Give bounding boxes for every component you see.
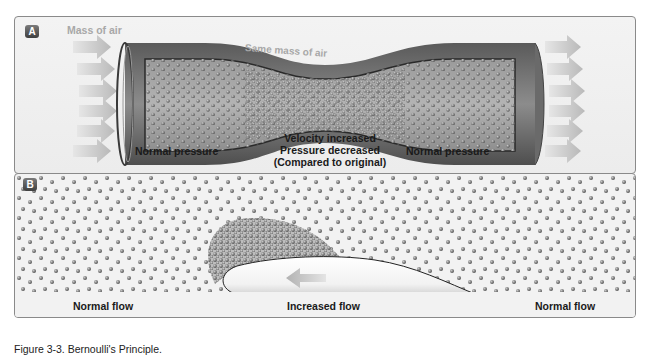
- panel-b-badge: B: [23, 178, 37, 191]
- panel-a-venturi: A Mass of air Same mass of air Normal pr…: [14, 16, 636, 174]
- inflow-arrows: [73, 35, 117, 163]
- velocity-pressure-label: Velocity increased Pressure decreased (C…: [265, 132, 395, 168]
- pressure-decreased-text: Pressure decreased: [265, 144, 395, 156]
- normal-flow-right-label: Normal flow: [535, 300, 595, 312]
- figure-caption: Figure 3-3. Bernoulli's Principle.: [14, 343, 162, 355]
- normal-pressure-left-label: Normal pressure: [135, 145, 218, 157]
- outflow-arrows: [545, 35, 585, 163]
- increased-flow-label: Increased flow: [287, 300, 360, 312]
- panel-a-badge: A: [25, 25, 39, 38]
- airfoil-illustration: [15, 174, 635, 317]
- normal-pressure-right-label: Normal pressure: [406, 145, 489, 157]
- velocity-increased-text: Velocity increased: [265, 132, 395, 144]
- normal-flow-left-label: Normal flow: [73, 300, 133, 312]
- mass-of-air-label: Mass of air: [67, 24, 122, 36]
- compared-to-original-text: (Compared to original): [265, 156, 395, 168]
- panel-b-airfoil: B Normal flow Increased flow Normal flow: [14, 173, 636, 318]
